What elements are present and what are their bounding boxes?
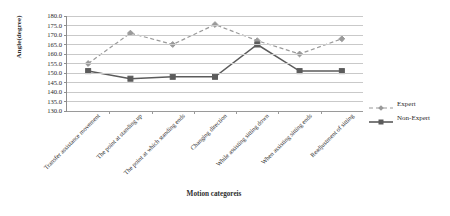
x-axis-tick-label: Transfer assistance movement [42,112,101,171]
y-axis-title: Angle(degree) [15,0,23,80]
legend-swatch-icon [368,113,394,123]
data-point-marker [213,74,218,79]
y-axis-tick-mark [64,82,67,83]
y-axis-tick-mark [64,92,67,93]
x-axis-tick-label: The point at standing up [95,112,143,160]
line-chart: Angle(degree) 180.0175.0170.0165.0160.01… [0,0,450,216]
legend-item[interactable]: Non-Expert [368,111,448,125]
data-point-marker [128,76,133,81]
y-axis-tick-mark [64,101,67,102]
gridline [67,73,363,74]
y-axis-tick-label: 130.0 [34,107,62,114]
y-axis-tick-label: 140.0 [34,88,62,95]
legend-swatch-icon [368,99,394,109]
y-axis-tick-mark [64,54,67,55]
y-axis-tick-label: 175.0 [34,22,62,29]
y-axis-tick-label: 160.0 [34,50,62,57]
x-axis-tick-labels: Transfer assistance movementThe point at… [66,112,362,184]
chart-legend: ExpertNon-Expert [368,97,448,125]
gridline [67,101,363,102]
y-axis-tick-mark [64,63,67,64]
y-axis-tick-label: 150.0 [34,69,62,76]
y-axis-tick-label: 170.0 [34,31,62,38]
data-point-marker [339,35,345,41]
y-axis-tick-label: 145.0 [34,79,62,86]
legend-label: Non-Expert [394,114,430,122]
y-axis-tick-label: 135.0 [34,98,62,105]
plot-area [66,16,363,111]
gridline [67,54,363,55]
legend-label: Expert [394,100,416,108]
gridline [67,92,363,93]
gridline [67,16,363,17]
y-axis-tick-mark [64,25,67,26]
gridline [67,63,363,64]
y-axis-tick-mark [64,35,67,36]
y-axis-tick-mark [64,73,67,74]
y-axis-tick-labels: 180.0175.0170.0165.0160.0155.0150.0145.0… [34,11,62,113]
data-point-marker [170,74,175,79]
y-axis-tick-label: 180.0 [34,12,62,19]
x-axis-tick-label: Changing direction [189,112,228,151]
gridline [67,82,363,83]
y-axis-tick-mark [64,44,67,45]
x-axis-tick-label: Readjustment of sitting [308,112,355,159]
gridline [67,44,363,45]
y-axis-tick-label: 155.0 [34,60,62,67]
y-axis-tick-mark [64,16,67,17]
legend-item[interactable]: Expert [368,97,448,111]
y-axis-tick-label: 165.0 [34,41,62,48]
gridline [67,35,363,36]
gridline [67,25,363,26]
x-axis-title: Motion categoreis [66,190,362,198]
x-axis-tick-label: When assisting sitting ends [259,112,313,166]
